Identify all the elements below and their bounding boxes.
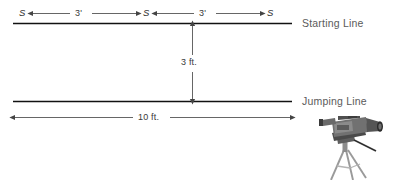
starting-line-label: Starting Line (302, 17, 364, 29)
dimension-label-10ft: 10 ft. (135, 112, 162, 122)
video-camera-on-tripod-icon (304, 116, 392, 180)
dimension-label-left-3ft: 3' (72, 8, 85, 18)
dimension-label-vertical-3ft: 3 ft. (178, 57, 200, 67)
station-marker-right: S (267, 7, 274, 18)
diagram-canvas: Starting Line Jumping Line S S S 3' 3' 3… (0, 0, 394, 180)
jumping-line-label: Jumping Line (302, 95, 367, 107)
station-marker-middle: S (143, 7, 150, 18)
station-marker-left: S (19, 7, 26, 18)
dimension-label-right-3ft: 3' (196, 8, 209, 18)
